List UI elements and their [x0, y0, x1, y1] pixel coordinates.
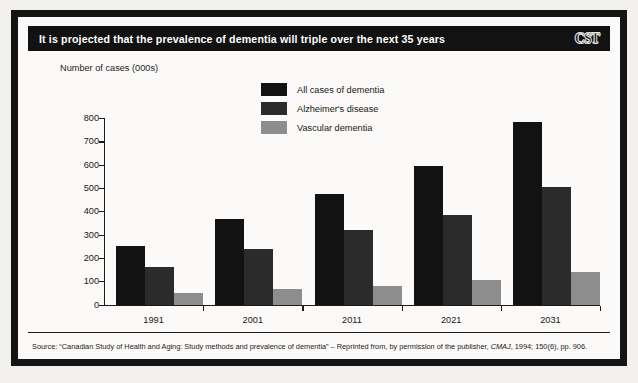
y-axis-line [104, 118, 105, 306]
bar-2001-series-0 [215, 219, 244, 304]
y-tick-label-600: 600 [84, 160, 99, 170]
y-tick-mark-700 [99, 141, 104, 142]
y-tick-label-400: 400 [84, 206, 99, 216]
bar-2001-series-2 [273, 289, 302, 304]
plot-region: 0100200300400500600700800 19912001201120… [104, 118, 600, 306]
y-tick-mark-300 [99, 235, 104, 236]
bar-2011-series-1 [344, 230, 373, 305]
source-note: Source: “Canadian Study of Health and Ag… [32, 342, 608, 351]
x-axis-line [104, 305, 600, 306]
x-tick-mark-1 [203, 306, 204, 311]
bar-1991-series-2 [174, 293, 203, 305]
bar-group-2021 [414, 118, 501, 305]
figure-title: It is projected that the prevalence of d… [39, 33, 445, 45]
x-tick-mark-3 [402, 306, 403, 311]
bar-2031-series-0 [513, 122, 542, 305]
bar-2001-series-1 [244, 249, 273, 305]
bar-2021-series-2 [472, 280, 501, 304]
source-journal: CMAJ [491, 342, 511, 351]
y-axis-title: Number of cases (000s) [60, 63, 158, 73]
legend-swatch-1 [261, 102, 287, 115]
y-tick-label-0: 0 [94, 300, 99, 310]
cst-logo: CST [575, 31, 601, 47]
legend-item-1: Alzheimer's disease [261, 99, 384, 118]
x-axis-label-2021: 2021 [441, 315, 461, 325]
bar-1991-series-1 [145, 267, 174, 304]
y-tick-label-500: 500 [84, 183, 99, 193]
chart-area: Number of cases (000s) All cases of deme… [18, 51, 620, 315]
bar-2031-series-1 [542, 187, 571, 305]
y-tick-mark-500 [99, 188, 104, 189]
x-tick-mark-2 [302, 306, 303, 311]
figure-inner: It is projected that the prevalence of d… [18, 17, 620, 359]
bar-2011-series-2 [373, 286, 402, 305]
source-divider [28, 332, 610, 333]
legend-label-1: Alzheimer's disease [297, 104, 378, 114]
bar-2011-series-0 [315, 194, 344, 305]
x-tick-mark-4 [501, 306, 502, 311]
x-axis-label-1991: 1991 [143, 315, 163, 325]
x-tick-mark-end [600, 306, 601, 311]
bar-2021-series-1 [443, 215, 472, 305]
bar-2021-series-0 [414, 166, 443, 305]
legend-swatch-0 [261, 83, 287, 96]
bar-group-2011 [315, 118, 402, 305]
x-axis-label-2001: 2001 [243, 315, 263, 325]
y-tick-mark-0 [99, 305, 104, 306]
figure-title-bar: It is projected that the prevalence of d… [28, 26, 610, 51]
y-tick-label-100: 100 [84, 276, 99, 286]
page-background: It is projected that the prevalence of d… [0, 0, 638, 383]
figure-frame: It is projected that the prevalence of d… [11, 10, 627, 366]
bar-group-2001 [215, 118, 302, 305]
x-axis-label-2031: 2031 [540, 315, 560, 325]
bar-group-2031 [513, 118, 600, 305]
y-tick-mark-100 [99, 281, 104, 282]
y-tick-mark-600 [99, 165, 104, 166]
y-tick-mark-800 [99, 118, 104, 119]
x-axis-label-2011: 2011 [342, 315, 362, 325]
y-tick-label-700: 700 [84, 136, 99, 146]
source-text-main: Source: “Canadian Study of Health and Ag… [32, 342, 491, 351]
bar-group-1991 [116, 118, 203, 305]
bar-1991-series-0 [116, 246, 145, 304]
bar-2031-series-2 [571, 272, 600, 305]
y-tick-label-800: 800 [84, 113, 99, 123]
y-tick-label-300: 300 [84, 230, 99, 240]
legend-item-0: All cases of dementia [261, 80, 384, 99]
source-text-tail: , 1994; 150(6), pp. 906. [511, 342, 587, 351]
y-tick-label-200: 200 [84, 253, 99, 263]
y-tick-mark-400 [99, 211, 104, 212]
legend-label-0: All cases of dementia [297, 85, 384, 95]
y-tick-mark-200 [99, 258, 104, 259]
